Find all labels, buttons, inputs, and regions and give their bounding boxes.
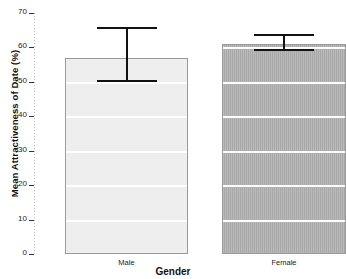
y-axis-tick-label: 50 [18,76,27,85]
y-axis-tick-label: 10 [18,214,27,223]
error-bar-male [65,27,188,82]
error-bar-cap-upper [254,34,314,36]
error-bar-cap-lower [97,80,157,82]
y-axis-tick-30: 30 [0,151,34,152]
y-axis-tick-50: 50 [0,82,34,83]
gridline [66,116,187,118]
gridline [223,151,345,153]
y-axis-tick-mark [29,254,34,255]
y-axis-tick-label: 60 [18,41,27,50]
gridline [223,185,345,187]
y-axis-tick-label: 30 [18,145,27,154]
plot-area [34,8,346,254]
gridline [66,82,187,84]
y-axis-tick-label: 20 [18,179,27,188]
x-axis-title: Gender [0,266,346,277]
error-bar-cap-lower [254,49,314,51]
bar-female[interactable] [222,44,346,254]
y-axis-tick-40: 40 [0,116,34,117]
y-axis-tick-label: 40 [18,110,27,119]
error-bar-female [222,34,346,51]
y-axis-tick-label: 70 [18,7,27,16]
gridline [66,185,187,187]
error-bar-stem [126,27,128,82]
y-axis-tick-20: 20 [0,185,34,186]
gridline [223,220,345,222]
gridline [66,220,187,222]
y-axis-tick-60: 60 [0,47,34,48]
y-axis-tick-10: 10 [0,220,34,221]
gridline [223,82,345,84]
error-bar-cap-upper [97,27,157,29]
y-axis-tick-label: 0 [23,248,27,257]
y-axis-tick-70: 70 [0,13,34,14]
y-axis-tick-0: 0 [0,254,34,255]
gridline [66,151,187,153]
bar-male[interactable] [65,58,188,254]
bar-chart: Mean Attractiveness of Date (%) 01020304… [0,0,346,279]
gridline [223,116,345,118]
